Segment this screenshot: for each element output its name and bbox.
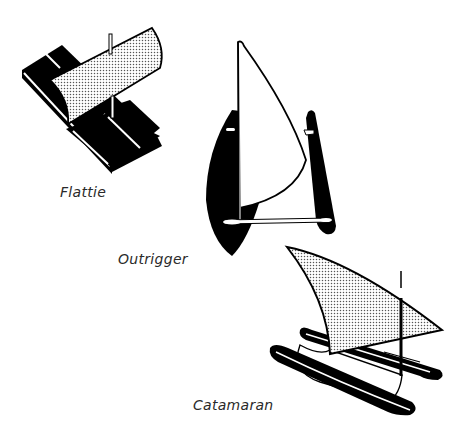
outrigger-boat: [206, 42, 336, 257]
catamaran-boat: [270, 247, 443, 415]
flattie-label: Flattie: [60, 184, 106, 200]
outrigger-sail: [238, 42, 306, 209]
outrigger-float: [306, 110, 336, 234]
sailboat-illustration: Flattie Outrigger Catamaran: [0, 0, 468, 440]
catamaran-label: Catamaran: [193, 397, 274, 413]
outrigger-label: Outrigger: [118, 251, 188, 267]
flattie-boat: [22, 28, 162, 174]
